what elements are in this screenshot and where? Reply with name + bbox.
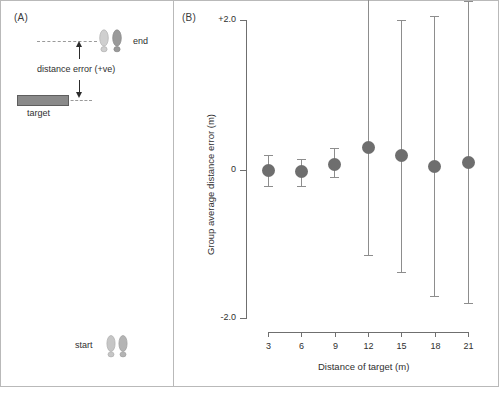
errorbar-cap-upper	[297, 159, 306, 160]
errorbar-cap-lower	[397, 272, 406, 273]
errorbar-whisker	[401, 20, 402, 272]
data-point-marker	[462, 156, 475, 169]
x-tick-label-6: 6	[287, 341, 316, 351]
data-point-marker	[362, 141, 375, 154]
errorbar-cap-lower	[330, 177, 339, 178]
y-tick-neg2	[240, 318, 246, 319]
end-footprints-icon	[97, 27, 127, 53]
errorbar-cap-upper	[264, 155, 273, 156]
end-label: end	[133, 36, 148, 46]
data-point-marker	[395, 149, 408, 162]
data-point-marker	[328, 158, 341, 171]
y-axis-line	[246, 20, 247, 319]
y-tick-label-neg2: -2.0	[203, 312, 236, 322]
target-label: target	[27, 108, 50, 118]
data-point-marker	[295, 165, 308, 178]
errorbar-whisker	[468, 1, 469, 303]
x-tick-12	[368, 332, 369, 337]
x-tick-label-15: 15	[387, 341, 416, 351]
y-axis-title: Group average distance error (m)	[205, 114, 216, 255]
errorbar-cap-upper	[397, 20, 406, 21]
x-tick-9	[335, 332, 336, 337]
x-tick-3	[268, 332, 269, 337]
errorbar-whisker	[368, 0, 369, 255]
start-footprints-icon	[104, 333, 132, 359]
y-tick-0	[240, 170, 246, 171]
y-tick-2	[240, 20, 246, 21]
distance-error-label: distance error (+ve)	[37, 64, 115, 74]
panel-b-label: (B)	[182, 12, 196, 23]
errorbar-cap-lower	[264, 186, 273, 187]
data-point-marker	[262, 164, 275, 177]
errorbar-cap-upper	[330, 148, 339, 149]
start-label: start	[75, 340, 93, 350]
arrow-up-icon	[76, 41, 82, 47]
errorbar-cap-lower	[364, 255, 373, 256]
x-tick-label-9: 9	[321, 341, 350, 351]
target-bar-icon	[17, 95, 69, 106]
figure-container: (A) end distance error (+ve) target sta	[0, 0, 499, 397]
figure-border-left	[0, 0, 1, 387]
x-tick-6	[301, 332, 302, 337]
errorbar-cap-lower	[464, 303, 473, 304]
errorbar-cap-lower	[297, 186, 306, 187]
figure-border-bottom	[0, 386, 499, 387]
x-tick-label-12: 12	[354, 341, 383, 351]
x-tick-21	[468, 332, 469, 337]
x-tick-label-3: 3	[254, 341, 283, 351]
errorbar-cap-upper	[430, 16, 439, 17]
target-reference-dashed-line	[66, 100, 92, 101]
panel-divider	[173, 0, 174, 387]
x-tick-label-21: 21	[454, 341, 483, 351]
errorbar-cap-lower	[430, 296, 439, 297]
figure-border-top	[0, 0, 499, 1]
panel-a-label: (A)	[14, 12, 28, 23]
errorbar-whisker	[434, 16, 435, 296]
end-reference-dashed-line	[37, 41, 97, 42]
data-point-marker	[428, 160, 441, 173]
x-tick-label-18: 18	[421, 341, 450, 351]
y-tick-label-2: +2.0	[203, 14, 236, 24]
arrow-down-icon	[76, 92, 82, 98]
distance-error-up-arrow-shaft	[79, 47, 80, 59]
x-tick-15	[401, 332, 402, 337]
errorbar-cap-upper	[464, 1, 473, 2]
x-axis-title: Distance of target (m)	[318, 361, 409, 372]
x-tick-18	[435, 332, 436, 337]
